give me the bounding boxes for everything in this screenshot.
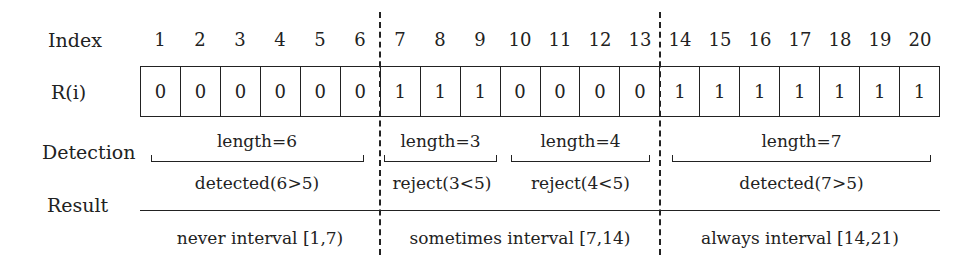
run-length-label: length=7 bbox=[672, 130, 931, 152]
dashed-separator bbox=[659, 12, 661, 255]
bracket bbox=[511, 155, 650, 162]
index-number: 11 bbox=[540, 28, 580, 52]
index-number: 19 bbox=[860, 28, 900, 52]
r-cell: 0 bbox=[181, 67, 221, 116]
r-cell: 0 bbox=[261, 67, 301, 116]
r-cell: 1 bbox=[740, 67, 780, 116]
r-value-row: 0 0 0 0 0 0 1 1 1 0 0 0 0 1 1 1 1 1 1 1 bbox=[140, 66, 940, 117]
run-length-label: length=3 bbox=[384, 130, 497, 152]
index-number: 6 bbox=[340, 28, 380, 52]
r-cell: 1 bbox=[421, 67, 461, 116]
run-length-label: length=6 bbox=[150, 130, 364, 152]
detection-verdict: detected(6>5) bbox=[150, 172, 364, 194]
detection-verdict: reject(3<5) bbox=[382, 172, 502, 194]
bracket bbox=[151, 155, 364, 162]
result-interval-label: sometimes interval [7,14) bbox=[380, 226, 660, 250]
index-number: 16 bbox=[740, 28, 780, 52]
r-cell: 1 bbox=[660, 67, 700, 116]
detection-verdict: reject(4<5) bbox=[511, 172, 650, 194]
r-cell: 1 bbox=[900, 67, 939, 116]
r-cell: 0 bbox=[620, 67, 660, 116]
detection-verdict: detected(7>5) bbox=[672, 172, 931, 194]
index-number: 12 bbox=[580, 28, 620, 52]
r-cell: 1 bbox=[860, 67, 900, 116]
index-number: 4 bbox=[260, 28, 300, 52]
index-number: 20 bbox=[900, 28, 940, 52]
index-number: 13 bbox=[620, 28, 660, 52]
r-cell: 0 bbox=[301, 67, 341, 116]
r-cell: 0 bbox=[221, 67, 261, 116]
index-number: 2 bbox=[180, 28, 220, 52]
row-label-detection: Detection bbox=[42, 140, 135, 164]
result-line bbox=[140, 210, 940, 211]
r-cell: 0 bbox=[141, 67, 181, 116]
bracket bbox=[672, 155, 931, 162]
bracket bbox=[384, 155, 497, 162]
r-cell: 1 bbox=[820, 67, 860, 116]
index-number: 10 bbox=[500, 28, 540, 52]
index-number: 9 bbox=[460, 28, 500, 52]
index-number: 18 bbox=[820, 28, 860, 52]
index-number: 5 bbox=[300, 28, 340, 52]
index-number: 15 bbox=[700, 28, 740, 52]
index-number: 17 bbox=[780, 28, 820, 52]
result-interval-label: always interval [14,21) bbox=[660, 226, 940, 250]
r-cell: 1 bbox=[780, 67, 820, 116]
r-cell: 1 bbox=[700, 67, 740, 116]
index-number: 8 bbox=[420, 28, 460, 52]
run-length-label: length=4 bbox=[511, 130, 650, 152]
index-number: 3 bbox=[220, 28, 260, 52]
index-number: 1 bbox=[140, 28, 180, 52]
result-interval-label: never interval [1,7) bbox=[140, 226, 380, 250]
row-label-index: Index bbox=[48, 28, 102, 52]
r-cell: 1 bbox=[381, 67, 421, 116]
dashed-separator bbox=[379, 12, 381, 255]
index-number: 7 bbox=[380, 28, 420, 52]
r-cell: 1 bbox=[461, 67, 501, 116]
row-label-r: R(i) bbox=[51, 80, 86, 104]
r-cell: 0 bbox=[541, 67, 581, 116]
r-cell: 0 bbox=[580, 67, 620, 116]
r-cell: 0 bbox=[341, 67, 381, 116]
r-cell: 0 bbox=[501, 67, 541, 116]
row-label-result: Result bbox=[47, 193, 108, 217]
index-number: 14 bbox=[660, 28, 700, 52]
